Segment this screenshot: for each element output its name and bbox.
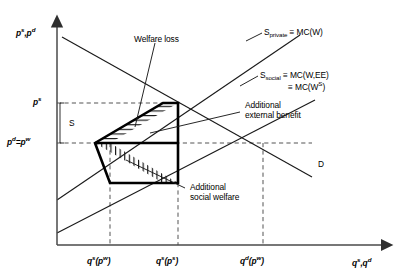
leader-s-social: [240, 76, 258, 86]
subsidy-brace-marks: [60, 103, 64, 143]
annotation-additional-social-welfare-line2: social welfare: [190, 192, 239, 202]
x-tick-label-qs-ps: qs(ps): [156, 256, 178, 266]
leader-external-benefit: [150, 112, 240, 133]
annotation-welfare-loss: Welfare loss: [134, 34, 179, 44]
subsidy-brace-label: S: [69, 118, 75, 128]
curves: [57, 35, 315, 233]
annotation-additional-external-benefit-line2: external benefit: [245, 110, 301, 120]
curve-label-s-social: Ssocial ≡ MC(W,EE): [260, 70, 329, 80]
x-tick-label-qd-pw: qd(pw): [240, 256, 264, 266]
curve-label-s-social-line2: ≡ MC(WS): [288, 82, 325, 92]
y-tick-label-ps: ps: [33, 97, 41, 107]
curve-label-s-private: Sprivate ≡ MC(W): [264, 27, 323, 37]
y-axis-label: ps,pd: [16, 28, 35, 38]
curve-label-demand: D: [318, 159, 324, 169]
y-tick-label-pd-pw: pd=pw: [7, 137, 30, 147]
annotation-additional-social-welfare-line1: Additional: [190, 182, 226, 192]
x-axis-label: qs,qd: [352, 258, 371, 268]
leader-s-private: [246, 33, 262, 41]
welfare-diagram: [0, 0, 400, 280]
x-tick-label-qs-pw: qs(pw): [87, 256, 111, 266]
annotation-additional-external-benefit-line1: Additional: [245, 100, 281, 110]
